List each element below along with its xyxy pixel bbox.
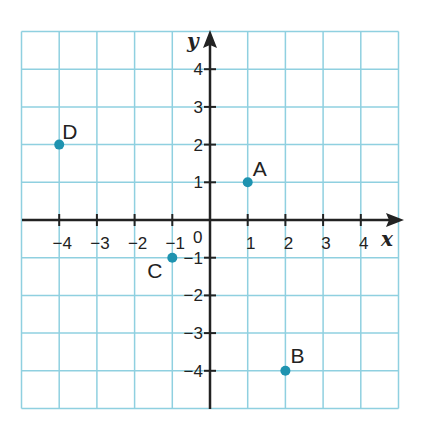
x-axis-label: x (380, 227, 394, 251)
point-marker-icon (243, 177, 253, 187)
x-tick-label: −1 (166, 234, 185, 253)
y-tick-label: 4 (194, 60, 203, 79)
x-tick-label: −3 (90, 234, 109, 253)
x-tick-label: −4 (53, 234, 72, 253)
y-tick-label: −2 (184, 286, 203, 305)
origin-label: 0 (193, 228, 202, 247)
y-tick-label: 2 (194, 136, 203, 155)
x-tick-label: 2 (284, 234, 293, 253)
point-label: D (62, 120, 77, 143)
x-tick-label: 3 (321, 234, 330, 253)
axes (22, 30, 404, 409)
x-tick-label: 1 (246, 234, 255, 253)
x-tick-label: −2 (128, 234, 147, 253)
y-tick-label: −4 (184, 362, 203, 381)
point-marker-icon (280, 366, 290, 376)
y-tick-label: 3 (194, 98, 203, 117)
y-tick-label: 1 (194, 173, 203, 192)
point-label: C (147, 259, 162, 282)
coordinate-plane: −4−3−2−112344321−1−2−3−4 x y 0 ABCD (0, 0, 421, 422)
y-tick-label: −1 (184, 249, 203, 268)
point-label: A (253, 157, 267, 180)
y-axis-label: y (186, 29, 200, 53)
x-tick-label: 4 (359, 234, 368, 253)
point-label: B (290, 344, 304, 367)
point-marker-icon (167, 253, 177, 263)
y-tick-label: −3 (184, 324, 203, 343)
